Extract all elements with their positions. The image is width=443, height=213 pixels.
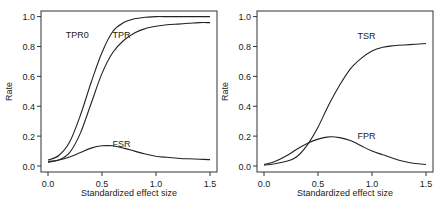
series-label-fpr: FPR xyxy=(358,131,377,141)
series-line-tsr xyxy=(264,44,426,166)
right-panel: 0.00.20.40.60.81.00.00.51.01.5Standardiz… xyxy=(220,11,433,198)
y-tick-label: 0.6 xyxy=(22,72,35,82)
y-tick-label: 0.6 xyxy=(238,72,251,82)
figure: 0.00.20.40.60.81.00.00.51.01.5Standardiz… xyxy=(0,0,443,213)
y-tick-label: 0.8 xyxy=(238,42,251,52)
plot-frame xyxy=(257,11,433,172)
y-tick-label: 1.0 xyxy=(22,12,35,22)
y-tick-label: 0.2 xyxy=(22,132,35,142)
series-label-tsr: TSR xyxy=(358,31,377,41)
x-tick-label: 0.0 xyxy=(258,179,271,189)
y-tick-label: 1.0 xyxy=(238,12,251,22)
y-tick-label: 0.8 xyxy=(22,42,35,52)
y-tick-label: 0.0 xyxy=(238,162,251,172)
y-tick-label: 0.0 xyxy=(22,162,35,172)
left-panel: 0.00.20.40.60.81.00.00.51.01.5Standardiz… xyxy=(4,11,217,198)
x-tick-label: 1.5 xyxy=(420,179,433,189)
series-label-fsr: FSR xyxy=(112,139,131,149)
y-axis-label: Rate xyxy=(4,82,14,101)
y-tick-label: 0.4 xyxy=(22,102,35,112)
series-label-tpr: TPR xyxy=(112,30,131,40)
y-tick-label: 0.4 xyxy=(238,102,251,112)
x-tick-label: 1.5 xyxy=(204,179,217,189)
x-tick-label: 0.0 xyxy=(42,179,55,189)
x-axis-label: Standardized effect size xyxy=(81,188,177,198)
y-axis-label: Rate xyxy=(220,82,230,101)
x-axis-label: Standardized effect size xyxy=(297,188,393,198)
y-tick-label: 0.2 xyxy=(238,132,251,142)
series-label-tpr0: TPR0 xyxy=(66,30,89,40)
